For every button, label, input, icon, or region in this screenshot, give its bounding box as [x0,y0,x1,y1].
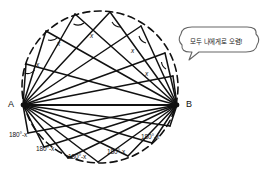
angle-label-supplementary-5: 180°-x [141,133,159,140]
angle-label-x-2: x [57,40,60,47]
angle-label-supplementary-2: 180°-x [36,145,54,152]
chord-lines-upper [23,12,177,105]
angle-label-x-1: x [36,61,39,68]
vertex-label-a: A [8,99,14,109]
angle-label-supplementary-4: 180°-x [107,148,125,155]
angle-label-x-5: x [145,70,148,77]
angle-label-x-3: x [90,32,93,39]
vertex-label-b: B [186,99,192,109]
vertex-dot-b [175,103,180,108]
angle-label-supplementary-3: 180°-x [68,153,86,160]
angle-label-x-4: x [131,47,134,54]
vertex-dot-a [21,103,26,108]
speech-bubble-text: 모두 나에게로 오렴! [190,36,242,46]
angle-label-supplementary-1: 180°-x [9,131,27,138]
diagram-canvas: A B x x x x x 180°-x 180°-x 180°-x 180°-… [0,0,269,175]
